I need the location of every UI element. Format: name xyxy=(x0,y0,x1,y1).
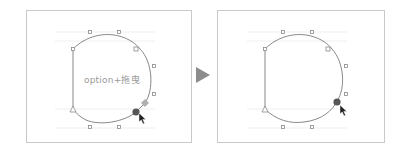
control-handles xyxy=(264,31,348,129)
selected-anchor xyxy=(132,108,139,115)
cursor-arrow-icon xyxy=(340,105,347,116)
option-drag-hint: option+拖曳 xyxy=(84,73,140,86)
guide-lines xyxy=(247,32,347,128)
after-diagram xyxy=(247,31,348,129)
cursor-arrow-icon xyxy=(139,113,146,124)
transition-arrow-icon xyxy=(196,67,210,83)
selected-anchor xyxy=(333,98,340,105)
